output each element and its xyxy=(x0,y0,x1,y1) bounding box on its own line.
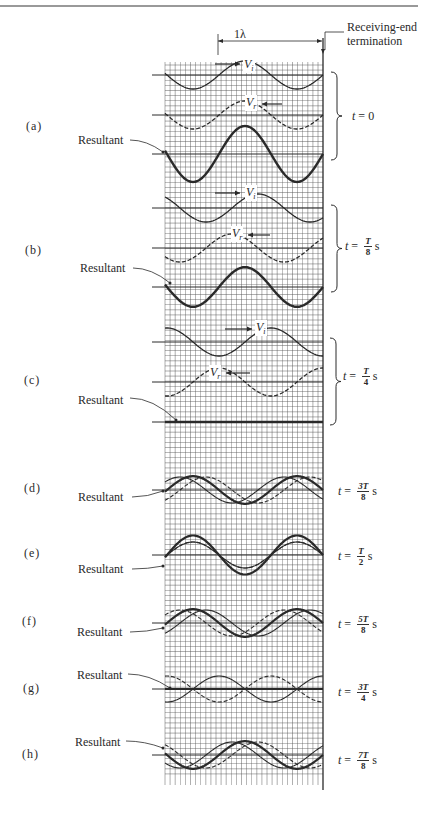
graph-paper-grid xyxy=(165,62,323,785)
panel-id-h: (h) xyxy=(22,747,39,762)
reflected-label-c: Vr xyxy=(209,365,221,381)
incident-label-b: Vi xyxy=(245,185,257,201)
panel-id-g: (g) xyxy=(23,681,40,696)
panel-id-c: (c) xyxy=(24,373,40,388)
standing-wave-figure xyxy=(0,0,425,830)
time-label-a: t=0 xyxy=(352,109,374,124)
panel-id-b: (b) xyxy=(25,243,42,258)
incident-label-c: Vi xyxy=(255,320,267,336)
wavelength-label: 1λ xyxy=(234,27,246,42)
resultant-label-c: Resultant xyxy=(78,393,123,408)
resultant-label-b: Resultant xyxy=(80,261,125,276)
resultant-label-e: Resultant xyxy=(78,562,123,577)
reflected-label-b: Vr xyxy=(231,226,243,242)
termination-label-2: termination xyxy=(347,34,402,49)
panel-id-d: (d) xyxy=(24,481,41,496)
time-label-f: t= 5T8 s xyxy=(338,614,377,635)
resultant-label-g: Resultant xyxy=(77,668,122,683)
incident-label-a: Vi xyxy=(243,57,255,73)
time-label-g: t= 3T4 s xyxy=(338,682,377,703)
resultant-label-f: Resultant xyxy=(77,625,122,640)
panel-id-f: (f) xyxy=(22,614,37,629)
panel-id-a: (a) xyxy=(26,119,42,134)
resultant-label-h: Resultant xyxy=(75,735,120,750)
time-label-h: t= 7T8 s xyxy=(338,750,377,771)
time-label-b: t= T8 s xyxy=(345,236,379,257)
annotations xyxy=(126,32,344,790)
time-label-d: t= 3T8 s xyxy=(338,481,377,502)
time-label-e: t= T2 s xyxy=(338,546,372,567)
panel-id-e: (e) xyxy=(24,546,40,561)
reflected-label-a: Vr xyxy=(245,95,257,111)
resultant-label-a: Resultant xyxy=(78,133,123,148)
termination-label-1: Receiving-end xyxy=(347,20,417,35)
time-label-c: t= T4 s xyxy=(343,366,377,387)
resultant-label-d: Resultant xyxy=(78,490,123,505)
